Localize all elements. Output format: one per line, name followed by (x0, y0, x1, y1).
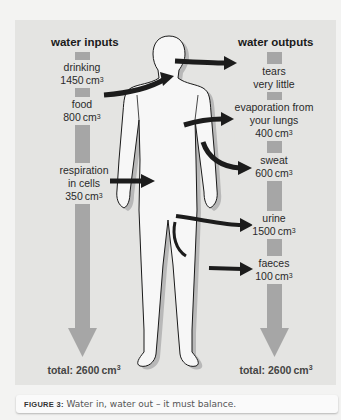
output-tears: tears very little (253, 64, 294, 92)
figure-caption-text: Water in, water out – it must balance. (66, 399, 236, 409)
output-tears-name: tears (253, 65, 294, 78)
output-sweat-name: sweat (255, 154, 293, 167)
input-food-name: food (63, 98, 101, 111)
output-urine-name: urine (252, 212, 295, 225)
output-faeces: faeces 100 cm3 (255, 256, 293, 284)
arrow-tears (175, 61, 225, 63)
input-respiration-name-2: in cells (59, 177, 108, 190)
outputs-down-arrowhead (260, 328, 289, 357)
output-tears-value: very little (253, 78, 294, 91)
arrow-tears-head (224, 56, 237, 70)
outputs-flow-bar (267, 52, 282, 330)
input-respiration-name-1: respiration (59, 164, 108, 177)
figure-caption: FIGURE 3: Water in, water out – it must … (16, 395, 338, 413)
inputs-total: total: 2600 cm3 (47, 364, 120, 376)
input-respiration: respiration in cells 350 cm3 (59, 163, 108, 204)
figure-number: FIGURE 3: (24, 400, 64, 409)
arrow-lungs-head (221, 112, 234, 126)
arrow-faeces (209, 268, 242, 269)
output-lungs-value: 400 cm3 (235, 127, 314, 140)
input-respiration-value: 350 cm3 (59, 190, 108, 203)
output-urine: urine 1500 cm3 (252, 211, 295, 239)
output-lungs-name-1: evaporation from (235, 101, 314, 114)
output-lungs: evaporation from your lungs 400 cm3 (235, 100, 314, 141)
outputs-total: total: 2600 cm3 (239, 364, 312, 376)
outputs-title: water outputs (238, 36, 313, 48)
output-faeces-name: faeces (255, 257, 293, 270)
input-food: food 800 cm3 (63, 97, 101, 125)
input-drinking: drinking 1450 cm3 (60, 60, 103, 88)
arrow-faeces-head (240, 262, 253, 276)
output-sweat: sweat 600 cm3 (255, 153, 293, 181)
output-urine-value: 1500 cm3 (252, 225, 295, 238)
arrow-urine-head (240, 218, 253, 232)
inputs-down-arrowhead (68, 328, 97, 357)
output-lungs-name-2: your lungs (235, 114, 314, 127)
inputs-title: water inputs (51, 36, 119, 48)
input-food-value: 800 cm3 (63, 111, 101, 124)
input-drinking-name: drinking (60, 61, 103, 74)
arrow-sweat-head (238, 161, 252, 175)
output-faeces-value: 100 cm3 (255, 270, 293, 283)
input-drinking-value: 1450 cm3 (60, 74, 103, 87)
water-balance-figure (0, 0, 341, 420)
output-sweat-value: 600 cm3 (255, 167, 293, 180)
